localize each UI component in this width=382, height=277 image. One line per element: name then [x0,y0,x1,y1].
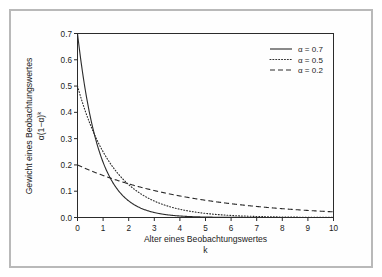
y-tick-label: 0.4 [61,108,73,117]
x-tick-label: 0 [75,224,80,233]
y-tick-label: 0.0 [61,214,73,223]
x-axis-title-line2: k [203,245,208,255]
legend-label: α = 0.7 [298,45,323,54]
y-tick-label: 0.7 [61,30,73,39]
x-tick-label: 10 [329,224,339,233]
y-tick-label: 0.3 [61,135,73,144]
x-tick-label: 9 [306,224,311,233]
chart-legend: α = 0.7α = 0.5α = 0.2 [270,45,323,75]
y-tick-label: 0.5 [61,82,73,91]
y-tick-label: 0.6 [61,56,73,65]
y-tick-label: 0.2 [61,161,73,170]
line-chart-svg: 0.00.10.20.30.40.50.60.7 012345678910 α … [0,0,382,277]
x-tick-label: 6 [229,224,234,233]
y-tick-label: 0.1 [61,187,73,196]
y-axis-title-formula-group: α(1−α)k [36,111,46,140]
figure-root: 0.00.10.20.30.40.50.60.7 012345678910 α … [0,0,382,277]
x-tick-label: 3 [152,224,157,233]
series-line-solid [78,34,334,218]
y-axis-title-formula: α(1−α)k [36,111,46,140]
plot-area-border [78,34,334,218]
data-series-group [78,34,334,218]
y-axis-title: Gewicht eines Beobachtungswertes [24,58,34,195]
y-axis-ticks: 0.00.10.20.30.40.50.60.7 [61,30,78,223]
x-tick-label: 4 [178,224,183,233]
x-tick-label: 1 [101,224,106,233]
chart-canvas: 0.00.10.20.30.40.50.60.7 012345678910 α … [0,0,382,277]
x-tick-label: 8 [280,224,285,233]
legend-label: α = 0.2 [298,66,323,75]
series-line-dashed [78,165,334,212]
legend-label: α = 0.5 [298,56,323,65]
series-line-dotted [78,86,334,217]
x-tick-label: 5 [203,224,208,233]
x-tick-label: 7 [254,224,259,233]
x-axis-title: Alter eines Beobachtungswertes [144,234,267,244]
x-tick-label: 2 [126,224,131,233]
x-axis-ticks: 012345678910 [75,218,338,233]
